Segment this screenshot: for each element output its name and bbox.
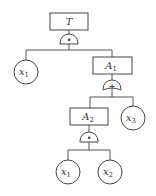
and-gate-symbol: • <box>67 36 72 45</box>
and-gate-symbol: • <box>87 134 92 143</box>
fault-tree-diagram: T • x1 A1 + x3 A2 • x1 x2 <box>0 0 156 196</box>
